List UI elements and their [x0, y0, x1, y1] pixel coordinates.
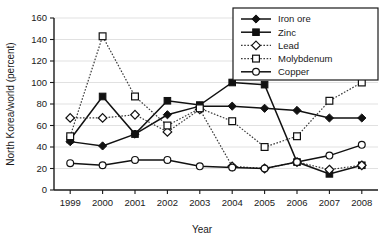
y-tick-label: 60: [36, 120, 47, 131]
y-tick-label: 160: [31, 12, 47, 23]
data-point: [164, 157, 171, 164]
data-point: [99, 142, 107, 150]
legend-marker: [253, 55, 260, 62]
data-point: [326, 97, 333, 104]
x-tick-label: 2003: [189, 197, 210, 208]
y-tick-label: 40: [36, 141, 47, 152]
x-axis-title: Year: [192, 224, 213, 235]
data-point: [132, 157, 139, 164]
y-tick-label: 120: [31, 55, 47, 66]
y-tick-label: 80: [36, 98, 47, 109]
x-tick-label: 2001: [124, 197, 145, 208]
legend-label: Iron ore: [278, 13, 311, 24]
data-point: [99, 162, 106, 169]
data-point: [99, 33, 106, 40]
x-tick-label: 2000: [92, 197, 113, 208]
data-point: [196, 105, 203, 112]
chart-container: 020406080100120140160 199920002001200220…: [0, 0, 389, 242]
x-tick-label: 2005: [254, 197, 275, 208]
data-point: [132, 131, 139, 138]
data-point: [196, 163, 203, 170]
data-point: [294, 133, 301, 140]
x-tick-label: 2008: [351, 197, 372, 208]
x-tick-label: 2004: [222, 197, 243, 208]
legend-marker: [253, 29, 260, 36]
y-tick-label: 100: [31, 77, 47, 88]
data-point: [164, 97, 171, 104]
legend-label: Copper: [278, 66, 309, 77]
x-tick-label: 2002: [157, 197, 178, 208]
data-point: [66, 114, 75, 123]
series-line: [70, 145, 362, 169]
series-line: [70, 83, 362, 174]
x-tick-label: 1999: [60, 197, 81, 208]
data-point: [67, 133, 74, 140]
data-point: [358, 141, 365, 148]
legend: Iron oreZincLeadMolybdenumCopper: [233, 8, 378, 80]
data-point: [228, 102, 236, 110]
data-point: [132, 93, 139, 100]
data-point: [261, 81, 268, 88]
data-point: [131, 110, 140, 119]
data-point: [98, 114, 107, 123]
data-point: [229, 118, 236, 125]
x-tick-labels-group: 1999200020012002200320042005200620072008: [60, 197, 373, 208]
data-point: [261, 165, 268, 172]
series-line: [70, 106, 362, 146]
y-tick-labels-group: 020406080100120140160: [31, 12, 47, 195]
data-point: [99, 93, 106, 100]
legend-label: Lead: [278, 40, 299, 51]
x-tick-label: 2006: [286, 197, 307, 208]
data-point: [229, 164, 236, 171]
legend-label: Zinc: [278, 27, 296, 38]
line-chart: 020406080100120140160 199920002001200220…: [0, 0, 389, 242]
data-point: [164, 122, 171, 129]
data-point: [326, 152, 333, 159]
legend-marker: [253, 68, 260, 75]
y-tick-label: 0: [42, 184, 47, 195]
data-point: [261, 144, 268, 151]
y-tick-label: 20: [36, 163, 47, 174]
data-point: [261, 104, 269, 112]
data-point: [163, 111, 171, 119]
series-copper: [67, 141, 365, 171]
y-axis-title: North Korea/world (percent): [5, 42, 16, 165]
series-zinc: [67, 79, 365, 177]
x-tick-label: 2007: [319, 197, 340, 208]
series-line: [70, 109, 362, 169]
legend-label: Molybdenum: [278, 53, 332, 64]
data-point: [294, 159, 301, 166]
data-point: [325, 114, 333, 122]
data-point: [358, 114, 366, 122]
y-tick-label: 140: [31, 34, 47, 45]
data-point: [67, 160, 74, 167]
data-point: [293, 106, 301, 114]
legend-item-molybdenum[interactable]: Molybdenum: [241, 53, 332, 64]
